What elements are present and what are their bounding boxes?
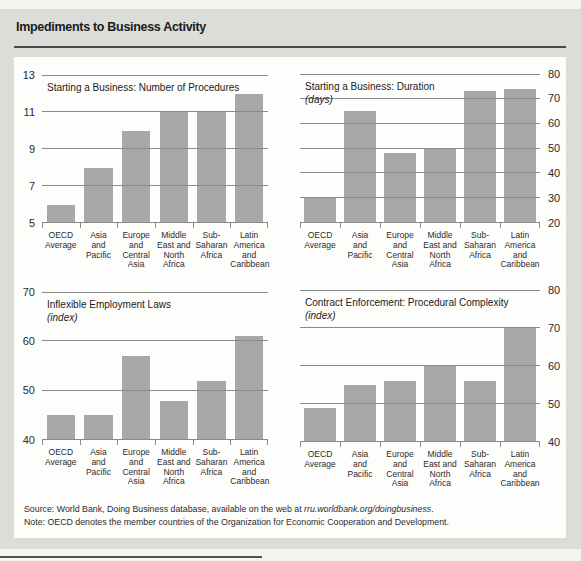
category-label: OECD Average <box>42 448 80 487</box>
x-axis-tick <box>539 223 540 228</box>
category-label: Asia and Pacific <box>80 448 118 487</box>
bar-1 <box>47 415 75 440</box>
bar-6 <box>235 94 263 224</box>
x-axis-tick <box>155 440 156 445</box>
category-label: Europe and Central Asia <box>117 231 155 270</box>
gridline-30 <box>300 197 540 198</box>
bar-6 <box>504 328 537 442</box>
y-tick-label: 13 <box>5 69 35 82</box>
x-axis-tick <box>267 440 268 445</box>
category-label: OECD Average <box>42 231 80 270</box>
gridline-11 <box>42 111 268 112</box>
bar-6 <box>504 89 537 223</box>
category-label: Asia and Pacific <box>80 231 118 270</box>
x-axis-tick <box>117 223 118 228</box>
category-label: Sub- Saharan Africa <box>460 450 500 489</box>
bar-3 <box>384 153 417 223</box>
bar-4 <box>424 149 457 224</box>
page-bottom-rule <box>0 556 262 558</box>
y-tick-label: 60 <box>5 335 35 348</box>
source-url: rru.worldbank.org/doingbusiness <box>304 504 431 514</box>
category-label: Europe and Central Asia <box>117 448 155 487</box>
category-labels: OECD AverageAsia and PacificEurope and C… <box>300 231 540 270</box>
x-axis-tick <box>80 223 81 228</box>
category-labels: OECD AverageAsia and PacificEurope and C… <box>300 450 540 489</box>
gridline-50 <box>300 148 540 149</box>
x-axis-tick <box>80 440 81 445</box>
gridline-60 <box>300 365 540 366</box>
x-axis-tick <box>300 442 301 447</box>
category-label: Latin America and Caribbean <box>230 448 268 487</box>
note-line: Note: OECD denotes the member countries … <box>24 516 449 529</box>
figure-page: Impediments to Business Activity 5791113… <box>0 0 581 561</box>
y-tick-label: 40 <box>5 434 35 447</box>
x-axis-tick <box>380 223 381 228</box>
chart-contract-enforcement-complexity: 4050607080Contract Enforcement: Procedur… <box>300 290 540 497</box>
x-axis-tick <box>380 442 381 447</box>
category-label: Middle East and North Africa <box>420 450 460 489</box>
x-axis-tick <box>117 440 118 445</box>
bar-5 <box>464 381 497 442</box>
x-axis-tick <box>267 223 268 228</box>
source-note-block: Source: World Bank, Doing Business datab… <box>24 503 449 528</box>
y-tick-label: 9 <box>5 143 35 156</box>
y-tick-label: 80 <box>548 68 560 81</box>
gridline-60 <box>42 340 268 341</box>
gridline-7 <box>42 185 268 186</box>
source-line: Source: World Bank, Doing Business datab… <box>24 503 449 516</box>
bar-4 <box>160 112 188 223</box>
plot-area: 5791113Starting a Business: Number of Pr… <box>42 75 268 223</box>
gridline-50 <box>300 403 540 404</box>
chart-title-block: Starting a Business: Duration(days) <box>305 80 435 106</box>
chart-title: Contract Enforcement: Procedural Complex… <box>305 296 508 309</box>
gridline-70 <box>300 327 540 328</box>
chart-inflexible-employment-laws: 40506070Inflexible Employment Laws(index… <box>42 292 268 495</box>
category-label: Middle East and North Africa <box>155 448 193 487</box>
y-tick-label: 60 <box>548 117 560 130</box>
y-tick-label: 70 <box>548 322 560 335</box>
chart-subtitle: (index) <box>47 311 171 324</box>
plot-area: 40506070Inflexible Employment Laws(index… <box>42 292 268 440</box>
y-tick-label: 40 <box>548 436 560 449</box>
category-labels: OECD AverageAsia and PacificEurope and C… <box>42 448 268 487</box>
gridline-40 <box>300 172 540 173</box>
x-axis-tick <box>42 440 43 445</box>
bar-1 <box>304 408 337 442</box>
bar-2 <box>84 168 112 224</box>
bar-3 <box>122 131 150 224</box>
x-axis-tick <box>155 223 156 228</box>
chart-panel: 5791113Starting a Business: Number of Pr… <box>14 57 566 538</box>
x-axis-tick <box>42 223 43 228</box>
category-label: Sub- Saharan Africa <box>193 231 231 270</box>
bar-5 <box>464 91 497 223</box>
bar-4 <box>424 366 457 442</box>
x-axis-tick <box>539 442 540 447</box>
bar-4 <box>160 401 188 440</box>
y-tick-label: 50 <box>548 142 560 155</box>
figure-title: Impediments to Business Activity <box>16 20 206 34</box>
category-label: Asia and Pacific <box>340 231 380 270</box>
gridline-60 <box>300 123 540 124</box>
plot-area: 4050607080Contract Enforcement: Procedur… <box>300 290 540 442</box>
x-axis-tick <box>420 442 421 447</box>
plot-area: 20304050607080Starting a Business: Durat… <box>300 74 540 223</box>
category-label: OECD Average <box>300 231 340 270</box>
y-tick-label: 40 <box>548 167 560 180</box>
category-labels: OECD AverageAsia and PacificEurope and C… <box>42 231 268 270</box>
category-label: Europe and Central Asia <box>380 231 420 270</box>
chart-title: Starting a Business: Duration <box>305 80 435 93</box>
bar-1 <box>304 198 337 223</box>
category-label: Europe and Central Asia <box>380 450 420 489</box>
category-label: Sub- Saharan Africa <box>460 231 500 270</box>
x-axis-tick <box>340 442 341 447</box>
chart-starting-business-procedures: 5791113Starting a Business: Number of Pr… <box>42 75 268 278</box>
x-axis-tick <box>193 440 194 445</box>
gridline-9 <box>42 148 268 149</box>
y-tick-label: 50 <box>5 384 35 397</box>
gridline-80 <box>300 290 540 291</box>
category-label: Sub- Saharan Africa <box>193 448 231 487</box>
y-tick-label: 20 <box>548 217 560 230</box>
title-rule <box>14 46 566 48</box>
category-label: Latin America and Caribbean <box>500 450 540 489</box>
category-label: Latin America and Caribbean <box>500 231 540 270</box>
